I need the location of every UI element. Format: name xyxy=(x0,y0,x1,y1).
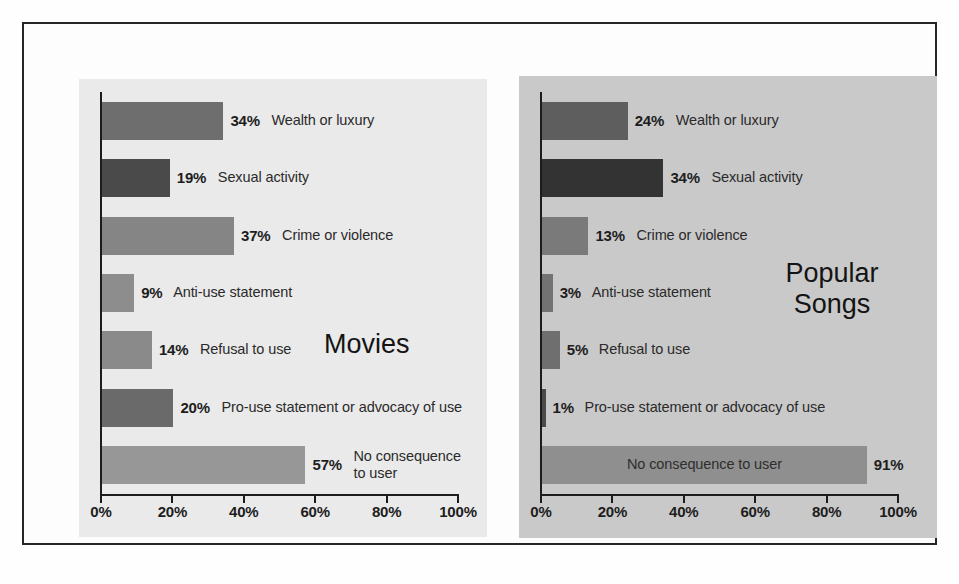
bar-value-label: 34% xyxy=(230,112,259,129)
bar-value-label: 91% xyxy=(874,456,903,473)
bar xyxy=(542,159,663,197)
panel-title-popular-songs: Popular Songs xyxy=(757,258,907,320)
bar-value-label: 57% xyxy=(312,456,341,473)
x-axis-tick xyxy=(754,496,756,503)
bar-category-label: Refusal to use xyxy=(599,341,690,358)
x-axis-tick-label: 0% xyxy=(530,503,551,520)
bar-value-label: 9% xyxy=(141,284,162,301)
x-axis-tick-label: 60% xyxy=(300,503,329,520)
bar-value-label: 37% xyxy=(241,227,270,244)
bar xyxy=(102,331,152,369)
bar-category-label: Sexual activity xyxy=(711,169,802,186)
bar-category-label: Pro-use statement or advocacy of use xyxy=(585,399,826,416)
plot-area-movies: 0%20%40%60%80%100%34%Wealth or luxury19%… xyxy=(79,79,487,537)
bar xyxy=(102,102,223,140)
x-axis-tick xyxy=(540,496,542,503)
x-axis-tick xyxy=(243,496,245,503)
bar-category-label: No consequence to user xyxy=(627,456,782,473)
bar xyxy=(102,159,170,197)
bar xyxy=(542,331,560,369)
bar-category-label: Refusal to use xyxy=(200,341,291,358)
bar-category-label: Wealth or luxury xyxy=(676,112,779,129)
bar-category-label: Crime or violence xyxy=(282,227,393,244)
bar xyxy=(542,217,588,255)
bar xyxy=(542,274,553,312)
bar xyxy=(542,389,546,427)
bar-value-label: 24% xyxy=(635,112,664,129)
x-axis-tick xyxy=(683,496,685,503)
x-axis-tick xyxy=(100,496,102,503)
x-axis-tick xyxy=(611,496,613,503)
bar-value-label: 19% xyxy=(177,169,206,186)
bar-category-label: Sexual activity xyxy=(218,169,309,186)
bar xyxy=(102,217,234,255)
bar-value-label: 14% xyxy=(159,341,188,358)
x-axis-tick-label: 0% xyxy=(90,503,111,520)
x-axis-tick-label: 60% xyxy=(740,503,769,520)
x-axis-tick-label: 20% xyxy=(158,503,187,520)
bar-value-label: 20% xyxy=(180,399,209,416)
bar-value-label: 34% xyxy=(670,169,699,186)
x-axis-tick-label: 100% xyxy=(879,503,917,520)
bar-value-label: 5% xyxy=(567,341,588,358)
x-axis-line xyxy=(540,494,899,496)
bar xyxy=(102,389,173,427)
bar-category-label: No consequence to user xyxy=(353,448,460,482)
x-axis-tick-label: 80% xyxy=(812,503,841,520)
x-axis-tick xyxy=(457,496,459,503)
x-axis-tick-label: 100% xyxy=(439,503,477,520)
panel-title-movies: Movies xyxy=(324,329,410,360)
bar xyxy=(542,102,628,140)
bar-category-label: Anti-use statement xyxy=(592,284,711,301)
x-axis-tick xyxy=(826,496,828,503)
x-axis-tick-label: 40% xyxy=(669,503,698,520)
bar-value-label: 3% xyxy=(560,284,581,301)
bar-value-label: 1% xyxy=(553,399,574,416)
bar-category-label: Wealth or luxury xyxy=(271,112,374,129)
bar-value-label: 13% xyxy=(595,227,624,244)
chart-panel-popular-songs: 0%20%40%60%80%100%24%Wealth or luxury34%… xyxy=(519,76,937,538)
x-axis-tick-label: 40% xyxy=(229,503,258,520)
x-axis-tick-label: 20% xyxy=(598,503,627,520)
chart-panel-movies: 0%20%40%60%80%100%34%Wealth or luxury19%… xyxy=(79,79,487,537)
bar xyxy=(102,274,134,312)
x-axis-tick-label: 80% xyxy=(372,503,401,520)
x-axis-tick xyxy=(171,496,173,503)
x-axis-tick xyxy=(386,496,388,503)
bar-category-label: Pro-use statement or advocacy of use xyxy=(221,399,462,416)
x-axis-line xyxy=(100,494,459,496)
x-axis-tick xyxy=(314,496,316,503)
bar-category-label: Anti-use statement xyxy=(173,284,292,301)
figure-outer-frame: 0%20%40%60%80%100%34%Wealth or luxury19%… xyxy=(22,22,937,545)
bar-category-label: Crime or violence xyxy=(636,227,747,244)
x-axis-tick xyxy=(897,496,899,503)
bar xyxy=(102,446,305,484)
figure-root: 0%20%40%60%80%100%34%Wealth or luxury19%… xyxy=(0,0,959,584)
